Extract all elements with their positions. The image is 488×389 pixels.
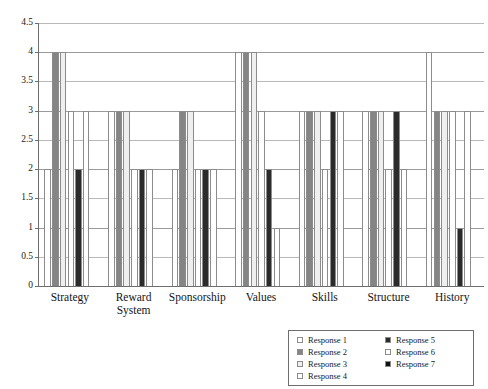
bar xyxy=(187,111,194,286)
bar-groups xyxy=(39,23,484,286)
bar xyxy=(243,52,250,286)
bar xyxy=(60,52,67,286)
legend-item: Response 1 xyxy=(297,335,379,345)
x-axis-label: Strategy xyxy=(38,291,102,317)
plot-area: 00.511.522.533.544.5 xyxy=(38,23,484,287)
bar xyxy=(322,169,329,286)
x-axis-label: Reward System xyxy=(102,291,166,317)
legend-column-left: Response 1Response 2Response 3Response 4 xyxy=(297,335,379,381)
legend-swatch-icon xyxy=(297,337,303,343)
legend-label: Response 6 xyxy=(396,347,435,357)
y-axis-tick-label: 2 xyxy=(28,164,33,174)
bar xyxy=(401,169,408,286)
bar-group xyxy=(103,23,167,286)
bar xyxy=(378,111,385,286)
legend-item: Response 4 xyxy=(297,371,379,381)
y-axis-tick-label: 2.5 xyxy=(21,135,33,145)
bar xyxy=(274,228,281,286)
bar xyxy=(314,111,321,286)
x-axis-label: Structure xyxy=(357,291,421,317)
legend-label: Response 3 xyxy=(308,359,347,369)
bar xyxy=(44,169,51,286)
bar xyxy=(393,111,400,286)
bar xyxy=(75,169,82,286)
bar xyxy=(330,111,337,286)
bar xyxy=(464,111,471,286)
y-axis-tick-label: 1.5 xyxy=(21,194,33,204)
bar xyxy=(83,111,90,286)
legend-swatch-icon xyxy=(385,349,391,355)
x-axis-label: Skills xyxy=(293,291,357,317)
legend-label: Response 4 xyxy=(308,371,347,381)
legend-label: Response 7 xyxy=(396,359,435,369)
legend-item: Response 5 xyxy=(385,335,467,345)
bar-group xyxy=(39,23,103,286)
bar xyxy=(258,111,265,286)
bar xyxy=(172,169,179,286)
y-axis-tick xyxy=(35,286,39,287)
bar xyxy=(235,52,242,286)
bar xyxy=(146,169,153,286)
bar xyxy=(179,111,186,286)
bar-group xyxy=(293,23,357,286)
bar-group xyxy=(230,23,294,286)
bar-group xyxy=(166,23,230,286)
bar-chart: 00.511.522.533.544.5 StrategyReward Syst… xyxy=(0,0,488,389)
bar xyxy=(210,169,217,286)
x-axis-label: History xyxy=(420,291,484,317)
bar xyxy=(123,111,130,286)
x-axis-label: Sponsorship xyxy=(165,291,229,317)
bar xyxy=(116,111,123,286)
legend-item: Response 2 xyxy=(297,347,379,357)
legend-item: Response 7 xyxy=(385,359,467,369)
bar xyxy=(441,111,448,286)
bar xyxy=(362,111,369,286)
bar xyxy=(68,111,75,286)
legend-label: Response 2 xyxy=(308,347,347,357)
x-axis-label: Values xyxy=(229,291,293,317)
bar-group xyxy=(420,23,484,286)
y-axis-tick-label: 4.5 xyxy=(21,18,33,28)
y-axis-tick-label: 0 xyxy=(28,281,33,291)
legend-label: Response 5 xyxy=(396,335,435,345)
legend-swatch-icon xyxy=(385,361,391,367)
bar xyxy=(306,111,313,286)
y-axis-tick-label: 0.5 xyxy=(21,252,33,262)
bar xyxy=(131,169,138,286)
bar xyxy=(457,228,464,286)
bar xyxy=(337,111,344,286)
y-axis-tick-label: 4 xyxy=(28,47,33,57)
legend-item: Response 3 xyxy=(297,359,379,369)
y-axis-tick-label: 3 xyxy=(28,106,33,116)
bar xyxy=(139,169,146,286)
x-axis-labels: StrategyReward SystemSponsorshipValuesSk… xyxy=(38,291,484,317)
bar xyxy=(385,169,392,286)
legend-swatch-icon xyxy=(297,373,303,379)
bar xyxy=(195,169,202,286)
legend-swatch-icon xyxy=(297,349,303,355)
legend-swatch-icon xyxy=(385,337,391,343)
y-axis-tick-label: 1 xyxy=(28,223,33,233)
legend-item: Response 6 xyxy=(385,347,467,357)
bar xyxy=(52,52,59,286)
bar xyxy=(299,111,306,286)
legend-column-right: Response 5Response 6Response 7 xyxy=(385,335,467,381)
bar xyxy=(266,169,273,286)
bar xyxy=(370,111,377,286)
bar xyxy=(434,111,441,286)
chart-legend: Response 1Response 2Response 3Response 4… xyxy=(288,330,474,386)
bar xyxy=(108,111,115,286)
bar xyxy=(202,169,209,286)
legend-swatch-icon xyxy=(297,361,303,367)
bar xyxy=(426,52,433,286)
bar xyxy=(449,111,456,286)
legend-label: Response 1 xyxy=(308,335,347,345)
bar xyxy=(251,52,258,286)
y-axis-tick-label: 3.5 xyxy=(21,77,33,87)
bar-group xyxy=(357,23,421,286)
